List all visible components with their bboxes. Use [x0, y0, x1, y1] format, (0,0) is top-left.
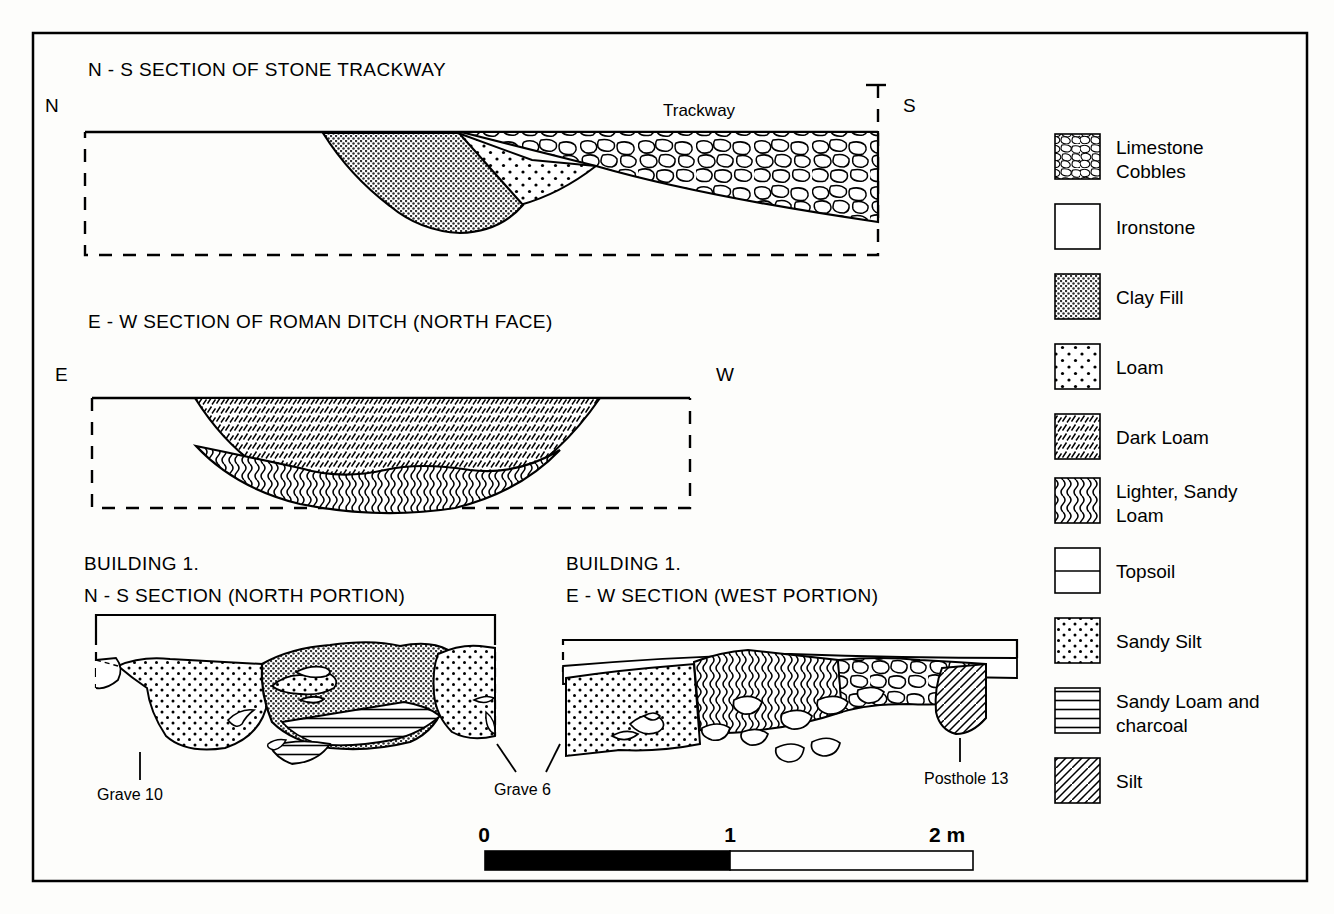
legend-label-dark-loam: Dark Loam [1116, 427, 1209, 448]
legend-label-silt: Silt [1116, 771, 1143, 792]
legend-swatch-loam [1055, 344, 1100, 389]
trackway-feature-label: Trackway [663, 101, 736, 120]
grave10-label: Grave 10 [97, 786, 163, 803]
grave6-label: Grave 6 [494, 781, 551, 798]
scale-tick-0: 0 [478, 823, 490, 846]
legend-swatch-sandy-silt [1055, 618, 1100, 663]
ditch-compass-east: E [55, 364, 68, 385]
scale-bar: 0 1 2 m [478, 823, 973, 870]
legend-item-dark-loam: Dark Loam [1055, 414, 1209, 459]
section-drawing-canvas: N - S SECTION OF STONE TRACKWAY N S Trac… [0, 0, 1334, 914]
legend-label-lighter-sandy-loam-line1: Lighter, Sandy [1116, 481, 1238, 502]
legend-label-loam: Loam [1116, 357, 1164, 378]
legend-swatch-silt [1055, 758, 1100, 803]
archaeological-section-figure: N - S SECTION OF STONE TRACKWAY N S Trac… [0, 0, 1334, 914]
building1-ns-section: BUILDING 1. N - S SECTION (NORTH PORTION… [84, 553, 560, 803]
legend-item-limestone-cobbles: Limestone Cobbles [1055, 134, 1204, 182]
legend-item-clay-fill: Clay Fill [1055, 274, 1184, 319]
legend-item-sandy-loam-charcoal: Sandy Loam and charcoal [1055, 688, 1260, 736]
legend-label-sandy-loam-charcoal-line2: charcoal [1116, 715, 1188, 736]
trackway-compass-south: S [903, 95, 916, 116]
ditch-section-title: E - W SECTION OF ROMAN DITCH (NORTH FACE… [88, 311, 553, 332]
building1-ew-section: BUILDING 1. E - W SECTION (WEST PORTION) [563, 553, 1017, 787]
legend: Limestone Cobbles Ironstone Clay Fill Lo… [1055, 134, 1260, 803]
legend-item-ironstone: Ironstone [1055, 204, 1195, 249]
trackway-section-title: N - S SECTION OF STONE TRACKWAY [88, 59, 446, 80]
legend-label-limestone-cobbles-line2: Cobbles [1116, 161, 1186, 182]
legend-swatch-ironstone [1055, 204, 1100, 249]
legend-item-loam: Loam [1055, 344, 1164, 389]
legend-label-sandy-loam-charcoal-line1: Sandy Loam and [1116, 691, 1260, 712]
legend-label-sandy-silt: Sandy Silt [1116, 631, 1202, 652]
legend-item-lighter-sandy-loam: Lighter, Sandy Loam [1055, 478, 1238, 526]
grave6-leader-line-left [497, 744, 516, 772]
legend-label-clay-fill: Clay Fill [1116, 287, 1184, 308]
building1-ns-grave10-cut [96, 658, 121, 688]
building1-ew-title-line1: BUILDING 1. [566, 553, 681, 574]
trackway-compass-north: N [45, 95, 59, 116]
building1-ns-title-line1: BUILDING 1. [84, 553, 199, 574]
scale-tick-2m: 2 m [929, 823, 965, 846]
legend-swatch-sandy-loam-charcoal [1055, 688, 1100, 733]
scale-tick-1: 1 [724, 823, 736, 846]
legend-label-ironstone: Ironstone [1116, 217, 1195, 238]
legend-label-topsoil: Topsoil [1116, 561, 1175, 582]
building1-ns-sandy-silt-right [434, 646, 496, 739]
posthole13-label: Posthole 13 [924, 770, 1009, 787]
legend-swatch-limestone-cobbles [1055, 134, 1100, 179]
building1-ew-lighter-sandy-loam [694, 650, 842, 733]
scale-bar-filled-segment [485, 851, 730, 870]
scale-bar-open-segment [730, 851, 973, 870]
legend-label-limestone-cobbles-line1: Limestone [1116, 137, 1204, 158]
legend-swatch-lighter-sandy-loam [1055, 478, 1100, 523]
building1-ew-posthole13-fill [936, 664, 986, 734]
legend-swatch-clay-fill [1055, 274, 1100, 319]
building1-ns-sandy-silt-left [118, 658, 268, 749]
legend-item-topsoil: Topsoil [1055, 548, 1175, 593]
trackway-section: N - S SECTION OF STONE TRACKWAY N S Trac… [45, 59, 916, 255]
building1-ew-sandy-silt [566, 664, 700, 756]
roman-ditch-section: E - W SECTION OF ROMAN DITCH (NORTH FACE… [55, 311, 734, 513]
legend-item-sandy-silt: Sandy Silt [1055, 618, 1202, 663]
ditch-compass-west: W [716, 364, 734, 385]
legend-item-silt: Silt [1055, 758, 1143, 803]
building1-ew-title-line2: E - W SECTION (WEST PORTION) [566, 585, 878, 606]
building1-ns-frame [96, 615, 495, 645]
legend-swatch-dark-loam [1055, 414, 1100, 459]
legend-label-lighter-sandy-loam-line2: Loam [1116, 505, 1164, 526]
grave6-leader-line-right [546, 744, 560, 772]
building1-ns-title-line2: N - S SECTION (NORTH PORTION) [84, 585, 405, 606]
